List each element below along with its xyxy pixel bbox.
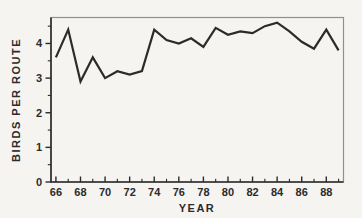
line-chart: 66687072747678808284868801234: [0, 0, 362, 218]
y-tick-label: 2: [36, 107, 42, 119]
x-tick-label: 72: [124, 186, 136, 198]
x-tick-label: 80: [222, 186, 234, 198]
y-tick-label: 0: [36, 176, 42, 188]
x-tick-label: 76: [173, 186, 185, 198]
data-line: [56, 23, 339, 82]
x-tick-label: 70: [99, 186, 111, 198]
y-tick-label: 3: [36, 72, 42, 84]
x-tick-label: 74: [148, 186, 161, 198]
x-tick-label: 88: [320, 186, 332, 198]
x-tick-label: 78: [197, 186, 209, 198]
x-tick-label: 84: [271, 186, 284, 198]
x-tick-label: 86: [296, 186, 308, 198]
x-axis-title: YEAR: [179, 202, 216, 214]
y-tick-label: 1: [36, 141, 42, 153]
x-tick-label: 82: [246, 186, 258, 198]
x-tick-label: 66: [50, 186, 62, 198]
y-tick-label: 4: [36, 37, 43, 49]
chart-figure: 66687072747678808284868801234 YEAR BIRDS…: [0, 0, 362, 218]
x-tick-label: 68: [74, 186, 86, 198]
y-axis-title: BIRDS PER ROUTE: [10, 38, 22, 162]
